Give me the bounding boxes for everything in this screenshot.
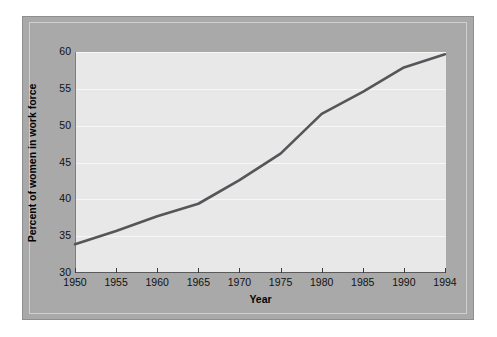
- x-axis-tick-label: 1980: [300, 276, 344, 288]
- figure-root: 30354045505560 1950195519601965197019751…: [0, 0, 497, 337]
- y-axis-tick-label: 45: [45, 157, 71, 168]
- x-axis-tick-mark: [322, 268, 323, 273]
- y-axis-title-wrapper: Percent of women in work force: [23, 52, 41, 273]
- x-axis-tick-mark: [281, 268, 282, 273]
- y-axis-tick-label: 50: [45, 120, 71, 131]
- x-axis-tick-label: 1990: [382, 276, 426, 288]
- figure-panel: 30354045505560 1950195519601965197019751…: [22, 16, 474, 320]
- x-axis-tick-labels: 1950195519601965197019751980198519901994: [75, 276, 446, 290]
- y-axis-tick-labels: 30354045505560: [41, 52, 71, 273]
- x-axis-tick-marks: [75, 268, 446, 274]
- x-axis-tick-mark: [445, 268, 446, 273]
- x-axis-tick-label: 1970: [217, 276, 261, 288]
- x-axis-tick-label: 1950: [53, 276, 97, 288]
- x-axis-tick-label: 1960: [135, 276, 179, 288]
- series-line-percent-women-in-work-force: [75, 52, 446, 273]
- x-axis-tick-mark: [116, 268, 117, 273]
- x-axis-tick-mark: [239, 268, 240, 273]
- x-axis-tick-label: 1955: [94, 276, 138, 288]
- x-axis-tick-label: 1994: [423, 276, 467, 288]
- y-axis-tick-label: 55: [45, 83, 71, 94]
- x-axis-tick-mark: [198, 268, 199, 273]
- x-axis-tick-label: 1975: [259, 276, 303, 288]
- line-chart: 30354045505560 1950195519601965197019751…: [23, 17, 475, 321]
- x-axis-tick-mark: [363, 268, 364, 273]
- x-axis-tick-mark: [75, 268, 76, 273]
- y-axis-title: Percent of women in work force: [26, 83, 38, 242]
- y-axis-tick-label: 40: [45, 193, 71, 204]
- y-axis-tick-label: 35: [45, 230, 71, 241]
- y-axis-tick-label: 60: [45, 46, 71, 57]
- x-axis-tick-mark: [404, 268, 405, 273]
- x-axis-tick-label: 1985: [341, 276, 385, 288]
- x-axis-tick-mark: [157, 268, 158, 273]
- x-axis-tick-label: 1965: [176, 276, 220, 288]
- x-axis-title: Year: [75, 293, 446, 305]
